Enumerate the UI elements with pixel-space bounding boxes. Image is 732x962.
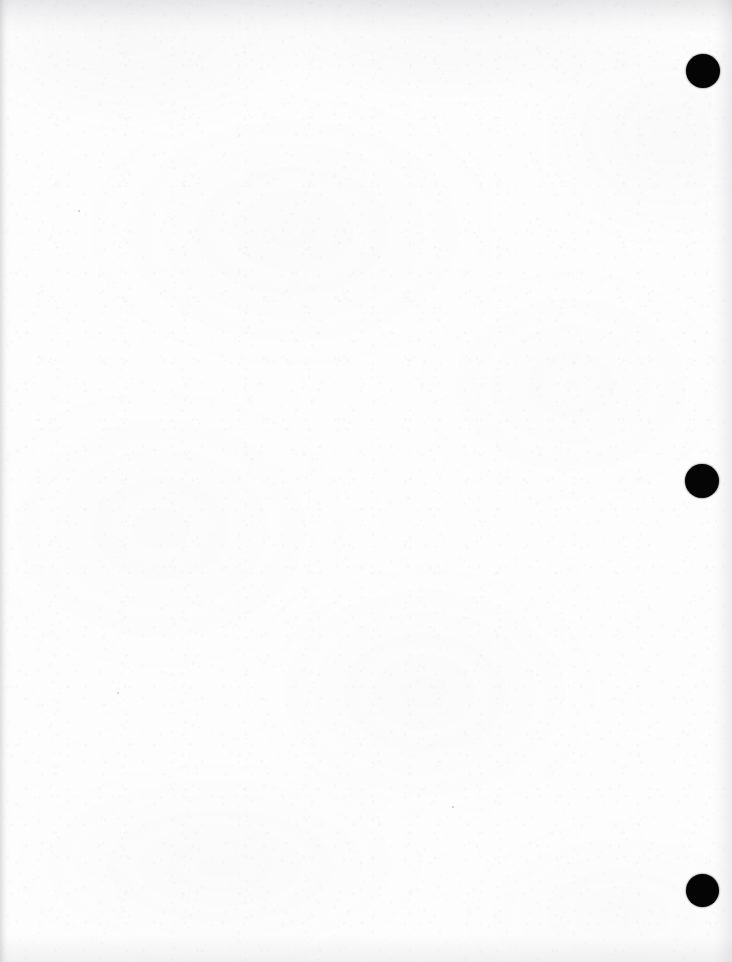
scanned-page: Blank scanned document page with three s… (0, 0, 732, 962)
margin-mark-top (686, 54, 720, 88)
margin-mark-bottom (686, 874, 719, 907)
page-background (0, 0, 732, 962)
margin-mark-middle (685, 464, 719, 498)
scan-speck (78, 210, 80, 212)
scan-speck (452, 806, 454, 808)
scan-speck (117, 692, 119, 694)
